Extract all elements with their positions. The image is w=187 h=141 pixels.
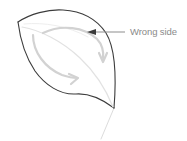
leaf-diagram: Wrong side <box>0 0 187 141</box>
annotation-label: Wrong side <box>130 26 177 37</box>
diagram-canvas: Wrong side <box>0 0 187 141</box>
